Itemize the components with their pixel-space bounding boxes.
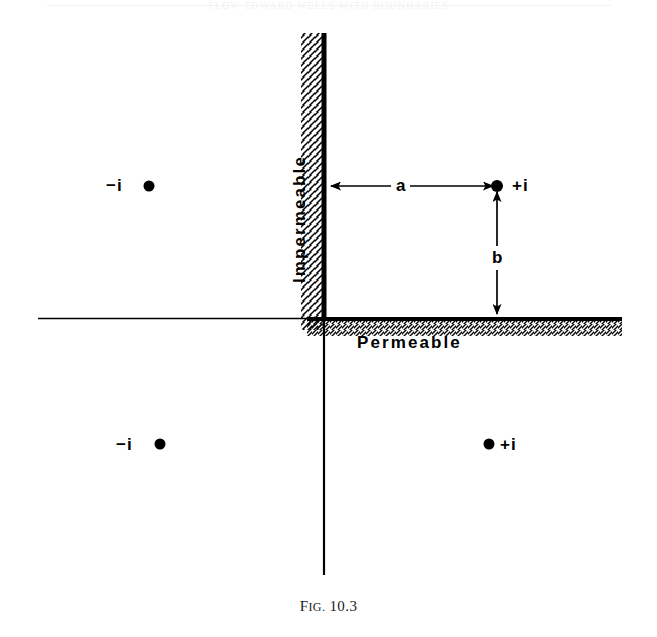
permeable-boundary-label: Permeable [357,333,462,353]
point-image-well-lower-left [155,439,166,450]
permeable-hatching [307,321,622,336]
point-label-upper-right: +i [512,176,529,196]
permeable-boundary [307,319,622,336]
point-label-lower-left: −i [116,435,133,455]
point-real-well-upper-right [491,180,503,192]
dimension-b-label: b [487,246,507,270]
impermeable-boundary-label: Impermeable [290,155,310,283]
point-label-upper-left: −i [106,176,123,196]
dimension-a-label: a [391,176,410,196]
figure-caption-number: 10.3 [329,598,357,614]
figure-caption-smallcaps: IG. [308,600,325,614]
point-label-lower-right: +i [500,435,517,455]
figure-caption: FIG. 10.3 [0,598,657,615]
point-image-well-upper-left [144,181,155,192]
point-image-well-lower-right [484,439,495,450]
figure-10-3: FLOW TOWARD WELLS WITH BOUNDARIES [0,0,657,637]
diagram-canvas [0,0,657,637]
